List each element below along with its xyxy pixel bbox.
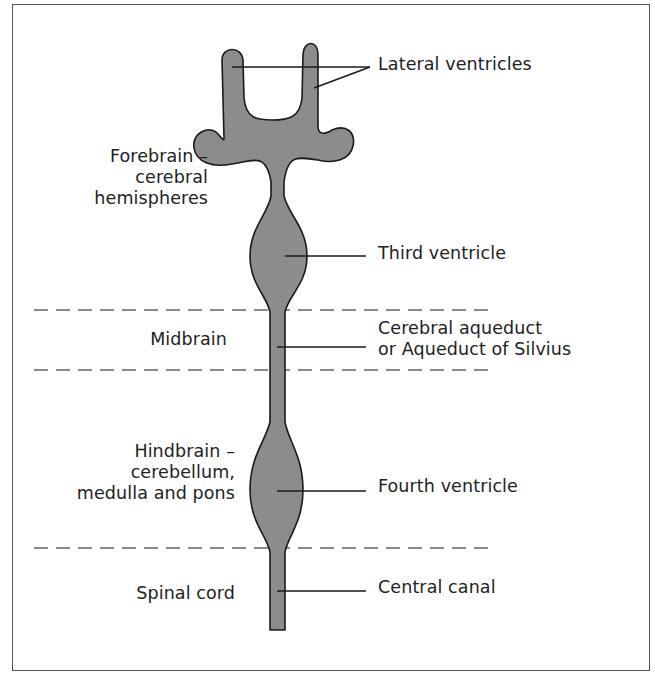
label-spinal-cord: Spinal cord (136, 583, 235, 604)
label-cerebral-aqueduct-line1: Cerebral aqueduct (378, 318, 571, 339)
label-midbrain: Midbrain (150, 329, 227, 350)
label-cerebral-aqueduct: Cerebral aqueduct or Aqueduct of Silvius (378, 318, 571, 360)
label-hindbrain-line2: cerebellum, (77, 462, 235, 483)
label-forebrain-line3: hemispheres (94, 188, 208, 209)
label-central-canal-line1: Central canal (378, 577, 496, 598)
leader-lateral-right (314, 67, 370, 88)
label-fourth-ventricle: Fourth ventricle (378, 476, 518, 497)
label-forebrain-line1: Forebrain – (94, 146, 208, 167)
label-forebrain: Forebrain – cerebral hemispheres (94, 146, 208, 209)
label-lateral-ventricles: Lateral ventricles (378, 54, 532, 75)
label-midbrain-line1: Midbrain (150, 329, 227, 350)
label-cerebral-aqueduct-line2: or Aqueduct of Silvius (378, 339, 571, 360)
label-spinal-cord-line1: Spinal cord (136, 583, 235, 604)
label-central-canal: Central canal (378, 577, 496, 598)
label-hindbrain-line1: Hindbrain – (77, 441, 235, 462)
label-hindbrain-line3: medulla and pons (77, 483, 235, 504)
label-third-ventricle-line1: Third ventricle (378, 243, 506, 264)
label-third-ventricle: Third ventricle (378, 243, 506, 264)
label-forebrain-line2: cerebral (94, 167, 208, 188)
label-fourth-ventricle-line1: Fourth ventricle (378, 476, 518, 497)
label-lateral-ventricles-line1: Lateral ventricles (378, 54, 532, 75)
label-hindbrain: Hindbrain – cerebellum, medulla and pons (77, 441, 235, 504)
